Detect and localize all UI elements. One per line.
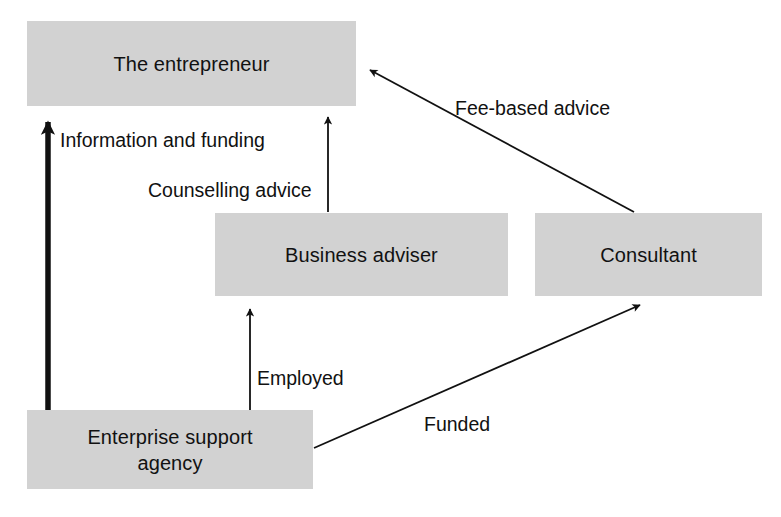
edge-label-fee-based-advice: Fee-based advice <box>455 97 610 119</box>
node-label: Business adviser <box>285 242 438 268</box>
node-business-adviser[interactable]: Business adviser <box>215 213 508 296</box>
node-enterprise-support-agency[interactable]: Enterprise support agency <box>27 410 313 489</box>
node-entrepreneur[interactable]: The entrepreneur <box>27 21 356 106</box>
node-consultant[interactable]: Consultant <box>535 213 762 296</box>
node-label: Consultant <box>600 242 697 268</box>
edge-label-counselling-advice: Counselling advice <box>148 179 312 201</box>
edge-label-information-and-funding: Information and funding <box>60 129 265 151</box>
node-label: Enterprise support agency <box>57 424 283 476</box>
edge-label-funded: Funded <box>424 413 490 435</box>
edge-label-employed: Employed <box>257 367 344 389</box>
node-label: The entrepreneur <box>113 51 269 77</box>
flow-diagram: The entrepreneur Business adviser Consul… <box>0 0 781 517</box>
edge-fee-based-advice <box>370 70 634 212</box>
